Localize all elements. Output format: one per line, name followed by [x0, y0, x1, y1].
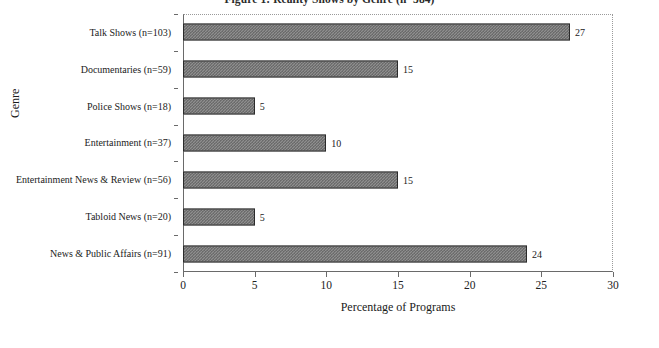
y-axis-tick — [174, 235, 178, 236]
x-axis-tick — [326, 272, 327, 277]
x-axis-tick-label: 0 — [180, 279, 186, 291]
bar-value-label: 5 — [255, 211, 265, 222]
bar-row: 15 — [183, 161, 613, 198]
x-axis-tick — [541, 272, 542, 277]
x-axis-tick — [183, 272, 184, 277]
bar-row: 27 — [183, 14, 613, 51]
y-axis-tick-label: Documentaries (n=59) — [81, 51, 171, 88]
bar — [183, 134, 326, 151]
bar-value-label: 15 — [398, 64, 413, 75]
x-axis-tick-label: 25 — [536, 279, 548, 291]
bar-row: 5 — [183, 88, 613, 125]
y-axis-tick — [174, 88, 178, 89]
bar-value-label: 5 — [255, 101, 265, 112]
y-axis-tick — [174, 272, 178, 273]
bar-value-label: 15 — [398, 174, 413, 185]
y-axis-tick-label: Entertainment (n=37) — [85, 125, 171, 162]
y-axis-tick — [174, 161, 178, 162]
bar — [183, 208, 255, 225]
bar-value-label: 24 — [527, 248, 542, 259]
y-axis-tick — [174, 14, 178, 15]
y-axis-tick-label: Entertainment News & Review (n=56) — [16, 161, 171, 198]
y-axis-category-labels: Talk Shows (n=103)Documentaries (n=59)Po… — [0, 14, 178, 272]
x-axis-tick-label: 5 — [252, 279, 258, 291]
bar — [183, 98, 255, 115]
x-axis-title: Percentage of Programs — [183, 300, 613, 315]
x-axis-tick-label: 20 — [464, 279, 476, 291]
bar-value-label: 27 — [570, 27, 585, 38]
y-axis-tick-label: Tabloid News (n=20) — [86, 198, 171, 235]
bar-series: 271551015524 — [183, 14, 613, 272]
bar-row: 5 — [183, 198, 613, 235]
x-axis-tick-label: 15 — [392, 279, 404, 291]
x-axis-tick — [255, 272, 256, 277]
bar-row: 24 — [183, 235, 613, 272]
y-axis-tick — [174, 125, 178, 126]
x-axis-tick — [613, 272, 614, 277]
bar — [183, 245, 527, 262]
bar — [183, 24, 570, 41]
bar — [183, 171, 398, 188]
y-axis-tick-label: Police Shows (n=18) — [87, 88, 171, 125]
y-axis-tick — [174, 198, 178, 199]
y-axis-tick-label: Talk Shows (n=103) — [89, 14, 171, 51]
x-axis-tick — [398, 272, 399, 277]
y-axis-title: Genre — [8, 89, 23, 118]
x-axis-tick-label: 30 — [607, 279, 619, 291]
bar-value-label: 10 — [326, 137, 341, 148]
bar-row: 15 — [183, 51, 613, 88]
x-axis-tick-label: 10 — [321, 279, 333, 291]
chart-title: Figure 1: Reality Shows by Genre (n=384) — [0, 0, 659, 5]
bar — [183, 61, 398, 78]
y-axis-tick-label: News & Public Affairs (n=91) — [50, 235, 171, 272]
x-axis-tick — [470, 272, 471, 277]
bar-row: 10 — [183, 125, 613, 162]
y-axis-tick — [174, 51, 178, 52]
